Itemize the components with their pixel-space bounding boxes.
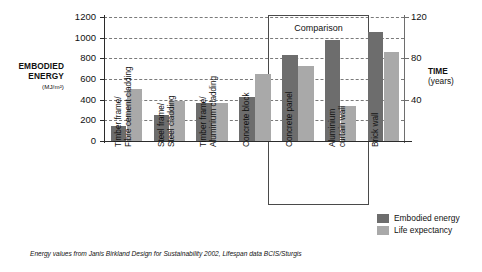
legend: Embodied energyLife expectancy (377, 214, 460, 238)
x-axis-category-label-line: Timber frame/ (114, 96, 123, 147)
plot-area (104, 17, 404, 141)
x-axis-category-label-line: Timber frame/ (199, 96, 208, 147)
legend-swatch (377, 214, 389, 223)
x-axis-category-label-line: Steel frame/ (157, 103, 166, 147)
y-axis-right-title: TIME (years) (428, 66, 480, 86)
x-axis-category-label-line: Fibre cement cladding (124, 66, 133, 147)
y-axis-left-tick-label: 200 (62, 115, 96, 125)
y-axis-right-title-text: TIME (428, 66, 448, 76)
x-axis-category-label-line: Concrete panel (285, 91, 294, 147)
legend-label: Life expectancy (394, 226, 452, 235)
legend-label: Embodied energy (394, 214, 460, 223)
x-axis-category-label-line: curtain wall (338, 106, 347, 147)
x-axis-category-label-line: Concrete block (242, 92, 251, 147)
y-axis-left-tick-label: 400 (62, 95, 96, 105)
y-axis-right-tick-label: 120 (411, 12, 427, 22)
bar-life-expectancy (255, 74, 271, 141)
y-axis-left-tick-label: 1200 (62, 12, 96, 22)
y-axis-right-line (404, 15, 405, 143)
source-footnote: Energy values from Janis Birkland Design… (30, 250, 302, 258)
legend-item: Life expectancy (377, 226, 460, 235)
embodied-energy-chart: EMBODIED ENERGY (MJ/m²) TIME (years) 020… (0, 0, 482, 272)
y-axis-right-tick-label: 40 (411, 95, 422, 105)
x-axis-category-label-line: Aluminium (328, 109, 337, 147)
y-axis-left-title-text: EMBODIED ENERGY (18, 61, 64, 81)
y-axis-left-title: EMBODIED ENERGY (MJ/m²) (8, 62, 64, 92)
bar-life-expectancy (384, 52, 400, 141)
y-axis-left-units: (MJ/m²) (8, 82, 64, 92)
legend-item: Embodied energy (377, 214, 460, 223)
x-axis-category-label-line: Aluminium cladding (209, 76, 218, 147)
y-axis-right-units: (years) (428, 76, 480, 86)
y-axis-left-tick-label: 600 (62, 74, 96, 84)
y-axis-left-tick-label: 1000 (62, 33, 96, 43)
legend-swatch (377, 226, 389, 235)
y-axis-left-tick-label: 800 (62, 53, 96, 63)
bar-life-expectancy (298, 66, 314, 141)
x-axis-category-label-line: Brick wall (371, 112, 380, 147)
y-axis-left-tick-label: 0 (62, 136, 96, 146)
x-axis-category-label-line: Steel cladding (167, 96, 176, 147)
x-axis-line (104, 141, 412, 142)
y-axis-right-tick-label: 80 (411, 53, 422, 63)
